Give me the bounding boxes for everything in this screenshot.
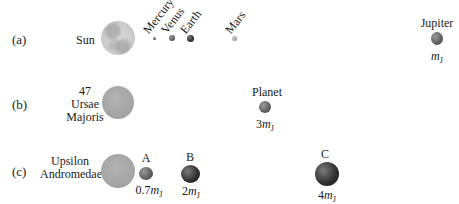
planet-b-mass: 3mJ [248, 118, 282, 135]
venus-disk [169, 35, 175, 41]
mars-label: Mars [222, 8, 249, 37]
mercury-disk [153, 37, 156, 40]
sun-disk [101, 21, 135, 55]
planet-c-label: C [317, 148, 333, 161]
star-c-disk [101, 154, 135, 188]
jupiter-label: Jupiter [414, 17, 459, 30]
row-label-c: (c) [12, 164, 26, 180]
planet-c-disk [315, 162, 339, 186]
planet-a-label: A [138, 152, 154, 165]
sun-label: Sun [76, 34, 95, 47]
mars-disk [232, 36, 237, 41]
jupiter-mass: mJ [420, 50, 454, 67]
planet-b-label: Planet [246, 86, 288, 99]
star-b-label: 47 Ursae Majoris [64, 85, 106, 124]
earth-disk [187, 35, 194, 42]
planet-a-mass: 0.7mJ [131, 184, 167, 201]
star-c-label: Upsilon Andromedae [40, 155, 100, 181]
row-label-a: (a) [12, 32, 26, 48]
planet-b2-disk [181, 165, 200, 183]
planet-b-disk [259, 101, 271, 113]
planet-a-disk [139, 167, 153, 180]
row-label-b: (b) [12, 97, 27, 113]
star-b-disk [102, 86, 134, 119]
planet-b2-label: B [182, 151, 198, 164]
jupiter-disk [431, 32, 443, 45]
planet-c-mass: 4mJ [311, 189, 343, 204]
planet-b2-mass: 2mJ [175, 185, 207, 202]
